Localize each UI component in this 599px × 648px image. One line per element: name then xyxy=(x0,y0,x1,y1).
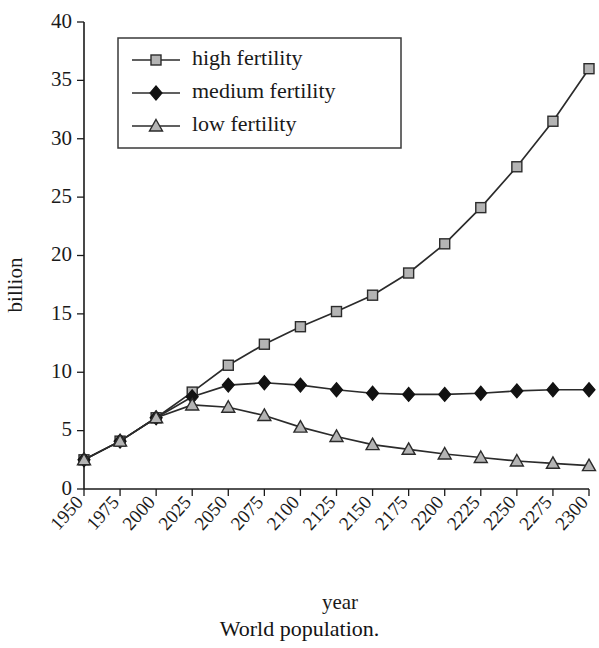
marker-square xyxy=(512,162,522,172)
marker-diamond xyxy=(367,386,379,400)
x-axis-title: year xyxy=(322,590,358,614)
x-axis-tick-label: 1950 xyxy=(46,492,87,534)
x-axis-tick-label: 2125 xyxy=(298,492,339,534)
marker-square xyxy=(476,203,486,213)
x-axis-tick-label: 2075 xyxy=(226,492,267,534)
y-axis-tick-label: 35 xyxy=(51,67,72,91)
legend-item-label: high fertility xyxy=(192,45,303,70)
marker-square xyxy=(368,290,378,300)
marker-diamond xyxy=(439,387,451,401)
marker-square xyxy=(404,268,414,278)
marker-square xyxy=(440,239,450,249)
x-axis-tick-label: 2200 xyxy=(407,492,448,534)
marker-square xyxy=(332,307,342,317)
y-axis-tick-label: 25 xyxy=(51,184,72,208)
marker-square xyxy=(259,339,269,349)
x-axis-tick-label: 2300 xyxy=(551,492,592,534)
chart-legend: high fertilitymedium fertilitylow fertil… xyxy=(118,38,401,148)
marker-diamond xyxy=(331,383,343,397)
x-axis: 1950197520002025205020752100212521502175… xyxy=(46,489,592,534)
marker-diamond xyxy=(403,387,415,401)
x-axis-tick-label: 2275 xyxy=(515,492,556,534)
legend-item-label: low fertility xyxy=(192,111,296,136)
y-axis: 0510152025303540 xyxy=(51,9,84,500)
marker-diamond xyxy=(258,376,270,390)
y-axis-tick-label: 30 xyxy=(51,126,72,150)
series-low-fertility xyxy=(78,398,596,470)
marker-diamond xyxy=(222,378,234,392)
legend-item-label: medium fertility xyxy=(192,78,336,103)
y-axis-tick-label: 40 xyxy=(51,9,72,33)
y-axis-tick-label: 15 xyxy=(51,301,72,325)
x-axis-tick-label: 2150 xyxy=(335,492,376,534)
marker-diamond xyxy=(475,386,487,400)
marker-square xyxy=(295,322,305,332)
marker-square xyxy=(151,55,161,65)
marker-square xyxy=(223,360,233,370)
x-axis-tick-label: 2000 xyxy=(118,492,159,534)
x-axis-tick-label: 1975 xyxy=(82,492,123,534)
marker-square xyxy=(548,116,558,126)
x-axis-tick-label: 2100 xyxy=(262,492,303,534)
y-axis-tick-label: 5 xyxy=(62,417,73,441)
marker-square xyxy=(584,64,594,74)
x-axis-tick-label: 2025 xyxy=(154,492,195,534)
marker-diamond xyxy=(547,383,559,397)
x-axis-tick-label: 2175 xyxy=(371,492,412,534)
y-axis-title: billion xyxy=(3,257,27,312)
x-axis-tick-label: 2225 xyxy=(443,492,484,534)
chart-canvas: 0510152025303540 19501975200020252050207… xyxy=(0,0,599,648)
marker-diamond xyxy=(511,384,523,398)
x-axis-tick-label: 2050 xyxy=(190,492,231,534)
marker-diamond xyxy=(583,383,595,397)
y-axis-tick-label: 20 xyxy=(51,242,72,266)
figure-caption: World population. xyxy=(0,616,599,642)
y-axis-tick-label: 10 xyxy=(51,359,72,383)
x-axis-tick-label: 2250 xyxy=(479,492,520,534)
marker-diamond xyxy=(294,378,306,392)
world-population-figure: 0510152025303540 19501975200020252050207… xyxy=(0,0,599,648)
